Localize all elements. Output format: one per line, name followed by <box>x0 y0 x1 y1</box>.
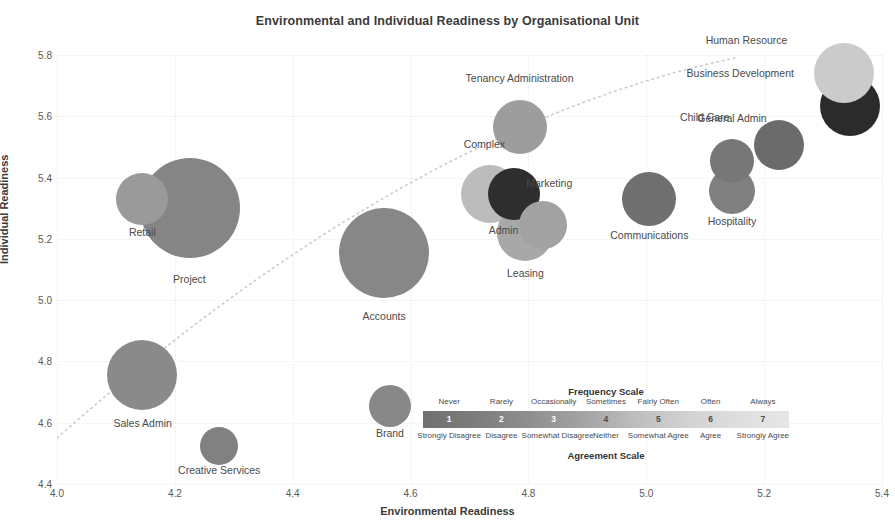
bubble-label: Leasing <box>507 268 544 279</box>
y-tick-label: 4.6 <box>12 417 52 428</box>
bubble-chart: Environmental and Individual Readiness b… <box>0 0 895 528</box>
x-tick-label: 5.4 <box>862 488 895 499</box>
legend-frequency-label: Sometimes <box>580 397 632 406</box>
bubble-label: Human Resource <box>706 35 788 46</box>
y-tick-label: 5.2 <box>12 233 52 244</box>
legend-frequency-label: Occasionally <box>528 397 580 406</box>
legend-agreement-label: Strongly Agree <box>731 431 795 440</box>
gridline-vertical <box>175 55 176 484</box>
bubble-label: Business Development <box>687 68 794 79</box>
legend-step-number: 1 <box>423 411 475 428</box>
x-axis-title: Environmental Readiness <box>0 505 895 517</box>
legend-agreement-title: Agreement Scale <box>423 450 789 461</box>
x-tick-label: 4.0 <box>37 488 77 499</box>
bubble-label: Accounts <box>363 311 406 322</box>
gridline-horizontal <box>57 55 882 56</box>
legend-frequency-label: Rarely <box>475 397 527 406</box>
legend-frequency-label: Often <box>684 397 736 406</box>
x-tick-label: 5.2 <box>744 488 784 499</box>
legend-step-number: 7 <box>737 411 789 428</box>
legend-frequency-label: Never <box>423 397 475 406</box>
bubble-label: Tenancy Administration <box>466 73 574 84</box>
chart-title: Environmental and Individual Readiness b… <box>0 14 895 28</box>
bubble-label: Communications <box>610 230 688 241</box>
gridline-vertical <box>57 55 58 484</box>
gridline-vertical <box>293 55 294 484</box>
x-tick-label: 4.8 <box>508 488 548 499</box>
bubble-point[interactable] <box>622 172 676 226</box>
y-tick-label: 5.6 <box>12 111 52 122</box>
legend-step-number: 4 <box>580 411 632 428</box>
x-axis-ticks: 4.04.24.44.64.85.05.25.4 <box>57 488 882 504</box>
x-tick-label: 4.6 <box>391 488 431 499</box>
bubble-label: Project <box>173 274 206 285</box>
bubble-label: Complex <box>464 139 505 150</box>
x-tick-label: 5.0 <box>626 488 666 499</box>
gridline-horizontal <box>57 484 882 485</box>
y-tick-label: 4.8 <box>12 356 52 367</box>
y-tick-label: 5.4 <box>12 172 52 183</box>
bubble-label: Hospitality <box>708 216 756 227</box>
bubble-label: Admin <box>489 225 519 236</box>
bubble-point[interactable] <box>339 208 429 298</box>
x-tick-label: 4.2 <box>155 488 195 499</box>
bubble-point[interactable] <box>369 385 411 427</box>
y-tick-label: 5.8 <box>12 50 52 61</box>
bubble-label: Sales Admin <box>113 418 171 429</box>
bubble-label: Brand <box>376 428 404 439</box>
bubble-point[interactable] <box>710 139 754 183</box>
bubble-label: Marketing <box>526 178 572 189</box>
y-axis-ticks: 4.44.64.85.05.25.45.65.8 <box>8 55 52 484</box>
gridline-vertical <box>882 55 883 484</box>
bubble-label: Child Care <box>680 112 730 123</box>
bubble-point[interactable] <box>754 120 804 170</box>
legend-frequency-label: Always <box>737 397 789 406</box>
y-tick-label: 5.0 <box>12 295 52 306</box>
legend-frequency-label: Fairly Often <box>632 397 684 406</box>
legend-step-number: 3 <box>528 411 580 428</box>
legend-step-number: 5 <box>632 411 684 428</box>
bubble-label: Creative Services <box>178 465 260 476</box>
bubble-label: Retail <box>129 227 156 238</box>
legend-step-number: 6 <box>684 411 736 428</box>
x-tick-label: 4.4 <box>273 488 313 499</box>
gridline-horizontal <box>57 361 882 362</box>
bubble-point[interactable] <box>519 201 567 249</box>
bubble-point[interactable] <box>200 427 238 465</box>
bubble-point[interactable] <box>814 43 874 103</box>
legend-step-number: 2 <box>475 411 527 428</box>
legend-frequency-title: Frequency Scale <box>423 386 789 397</box>
gridline-horizontal <box>57 300 882 301</box>
readiness-scale-legend: Frequency Scale 1NeverStrongly Disagree2… <box>423 386 789 462</box>
